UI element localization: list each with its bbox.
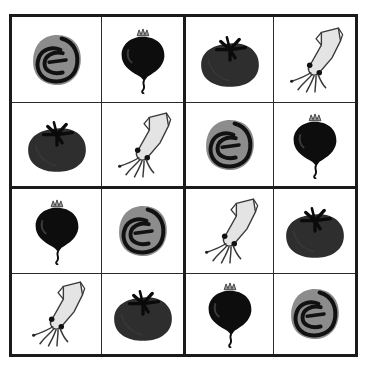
beet-icon [23, 197, 91, 265]
grid-cell-r3-c3[interactable] [186, 189, 274, 274]
grid-cell-r2-c3[interactable] [186, 103, 274, 189]
squid-icon [281, 26, 349, 94]
tomato-icon [281, 197, 349, 265]
grid-cell-r4-c1[interactable] [12, 274, 102, 354]
grid-cell-r2-c1[interactable] [12, 103, 102, 189]
sudoku-board [9, 14, 358, 357]
tomato-icon [109, 280, 177, 348]
beet-icon [281, 111, 349, 179]
tomato-icon [23, 111, 91, 179]
tomato-icon [196, 26, 264, 94]
cabbage-icon [281, 280, 349, 348]
cabbage-icon [23, 26, 91, 94]
squid-icon [23, 280, 91, 348]
grid-cell-r4-c4[interactable] [274, 274, 355, 354]
grid-cell-r1-c1[interactable] [12, 17, 102, 103]
squid-icon [196, 197, 264, 265]
grid-cell-r2-c2[interactable] [102, 103, 186, 189]
grid-cell-r3-c2[interactable] [102, 189, 186, 274]
cabbage-icon [109, 197, 177, 265]
grid-cell-r1-c2[interactable] [102, 17, 186, 103]
squid-icon [109, 111, 177, 179]
grid-cell-r1-c3[interactable] [186, 17, 274, 103]
beet-icon [109, 26, 177, 94]
grid-cell-r4-c2[interactable] [102, 274, 186, 354]
beet-icon [196, 280, 264, 348]
grid-cell-r1-c4[interactable] [274, 17, 355, 103]
grid-cell-r3-c1[interactable] [12, 189, 102, 274]
grid-cell-r4-c3[interactable] [186, 274, 274, 354]
cabbage-icon [196, 111, 264, 179]
grid-cell-r3-c4[interactable] [274, 189, 355, 274]
grid-cell-r2-c4[interactable] [274, 103, 355, 189]
